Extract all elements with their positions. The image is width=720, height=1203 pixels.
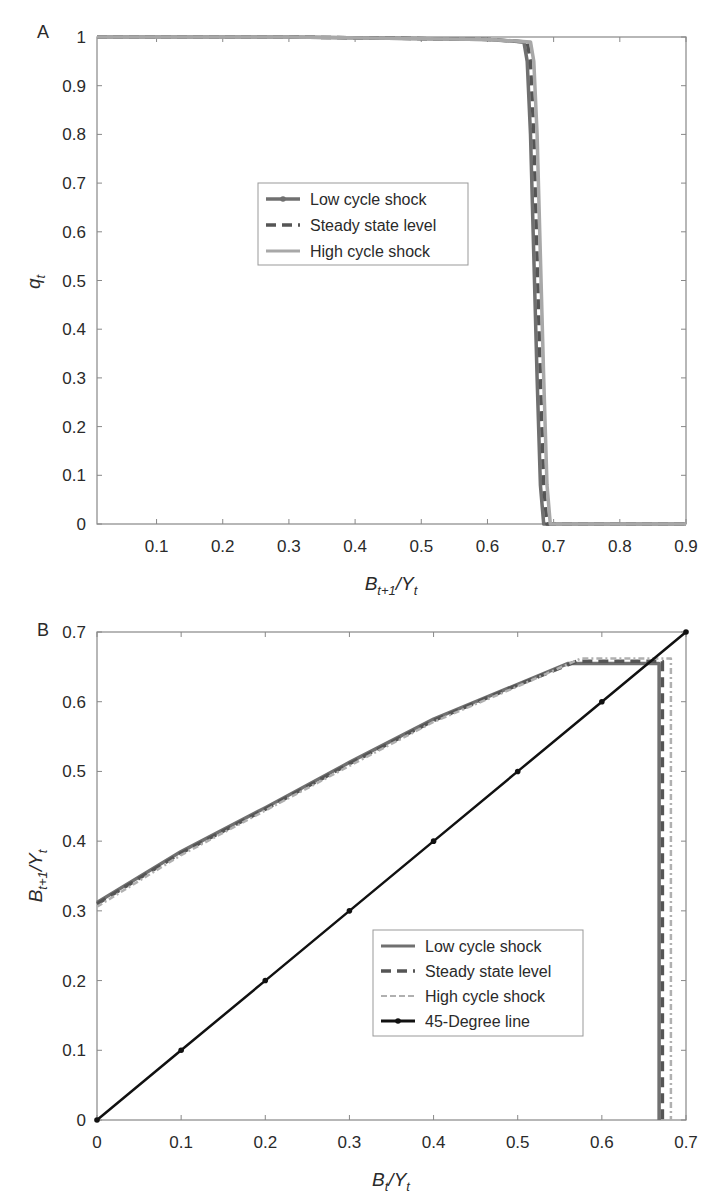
y-tick-label: 0.3 <box>62 369 86 388</box>
legend-label: Low cycle shock <box>310 191 427 208</box>
x-tick-label: 0.4 <box>343 537 367 556</box>
y-tick-label: 0.9 <box>62 77 86 96</box>
x-tick-label: 0.3 <box>277 537 301 556</box>
y-tick-label: 0 <box>77 515 86 534</box>
data-marker <box>94 1117 100 1123</box>
x-tick-label: 0.9 <box>674 537 698 556</box>
legend-marker <box>395 1018 401 1024</box>
x-tick-label: 0.8 <box>608 537 632 556</box>
series-steady-state-level <box>97 37 686 524</box>
y-tick-label: 0 <box>77 1111 86 1130</box>
y-tick-label: 0.3 <box>62 902 86 921</box>
legend-label: High cycle shock <box>310 243 431 260</box>
legend-label: Low cycle shock <box>425 938 542 955</box>
y-axis-title-b: Bt+1/Yt <box>25 848 50 902</box>
legend-label: 45-Degree line <box>425 1013 530 1030</box>
data-marker <box>515 769 521 775</box>
x-tick-label: 0.2 <box>211 537 235 556</box>
legend-marker <box>280 196 286 202</box>
x-tick-label: 0.6 <box>476 537 500 556</box>
x-tick-label: 0.4 <box>422 1133 446 1152</box>
data-marker <box>683 629 689 635</box>
legend-a: Low cycle shockSteady state levelHigh cy… <box>258 183 468 265</box>
x-tick-label: 0.5 <box>506 1133 530 1152</box>
y-tick-label: 0.7 <box>62 174 86 193</box>
y-tick-label: 0.5 <box>62 272 86 291</box>
y-tick-label: 1 <box>77 28 86 47</box>
x-tick-label: 0.1 <box>169 1133 193 1152</box>
x-tick-label: 0 <box>92 1133 101 1152</box>
y-tick-label: 0.6 <box>62 223 86 242</box>
legend-label: Steady state level <box>310 217 436 234</box>
plot-frame <box>97 37 686 524</box>
y-tick-label: 0.4 <box>62 832 86 851</box>
y-axis-title-a: qt <box>23 274 48 290</box>
x-tick-label: 0.7 <box>542 537 566 556</box>
x-axis-title-b: Bt/Yt <box>372 1169 411 1194</box>
x-tick-label: 0.6 <box>590 1133 614 1152</box>
panel-B: B00.10.20.30.40.50.60.700.10.20.30.40.50… <box>37 620 698 1152</box>
y-tick-label: 0.1 <box>62 466 86 485</box>
legend-label: High cycle shock <box>425 988 546 1005</box>
y-tick-label: 0.8 <box>62 125 86 144</box>
panel-A: A00.10.20.30.40.50.60.70.80.910.10.20.30… <box>37 22 698 556</box>
y-tick-label: 0.7 <box>62 623 86 642</box>
y-tick-label: 0.6 <box>62 693 86 712</box>
panel-label: A <box>37 22 49 42</box>
y-tick-label: 0.2 <box>62 972 86 991</box>
x-tick-label: 0.1 <box>145 537 169 556</box>
data-marker <box>599 699 605 705</box>
x-tick-label: 0.2 <box>253 1133 277 1152</box>
x-axis-title-a: Bt+1/Yt <box>365 573 419 598</box>
figure: A00.10.20.30.40.50.60.70.80.910.10.20.30… <box>0 0 720 1203</box>
y-tick-label: 0.1 <box>62 1041 86 1060</box>
y-tick-label: 0.2 <box>62 418 86 437</box>
series-low-cycle-shock <box>97 37 686 524</box>
y-tick-label: 0.5 <box>62 762 86 781</box>
y-tick-label: 0.4 <box>62 320 86 339</box>
data-marker <box>431 838 437 844</box>
x-tick-label: 0.7 <box>674 1133 698 1152</box>
data-marker <box>347 908 353 914</box>
panel-label: B <box>37 620 49 640</box>
x-tick-label: 0.3 <box>338 1133 362 1152</box>
x-tick-label: 0.5 <box>409 537 433 556</box>
legend-label: Steady state level <box>425 963 551 980</box>
data-marker <box>262 978 268 984</box>
series-high-cycle-shock <box>97 37 686 524</box>
series-45-degree-line <box>97 632 686 1120</box>
data-marker <box>178 1047 184 1053</box>
legend-b: Low cycle shockSteady state levelHigh cy… <box>373 930 583 1036</box>
